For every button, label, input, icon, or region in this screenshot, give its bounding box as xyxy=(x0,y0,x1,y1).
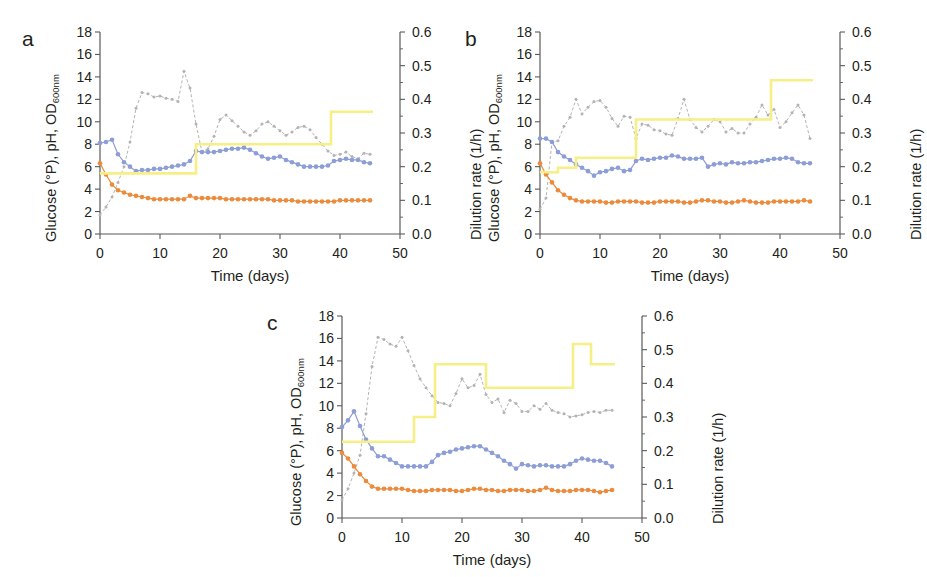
data-point xyxy=(371,365,374,368)
data-point xyxy=(724,200,729,205)
data-point xyxy=(616,165,621,170)
data-point xyxy=(236,146,241,151)
data-point xyxy=(647,124,650,127)
data-point xyxy=(98,141,103,146)
data-point xyxy=(350,158,355,163)
data-point xyxy=(284,158,289,163)
data-point xyxy=(743,132,746,135)
data-point xyxy=(610,200,615,205)
data-point xyxy=(539,208,542,211)
data-point xyxy=(808,161,813,166)
data-point xyxy=(159,94,162,97)
data-point xyxy=(761,103,764,106)
data-point xyxy=(527,410,530,413)
data-point xyxy=(598,490,603,495)
data-point xyxy=(248,148,253,153)
data-point xyxy=(754,200,759,205)
data-point xyxy=(659,129,662,132)
data-point xyxy=(466,445,471,450)
data-point xyxy=(616,199,621,204)
series-dilution-rate xyxy=(100,112,373,174)
data-point xyxy=(146,196,151,201)
data-point xyxy=(551,409,554,412)
data-point xyxy=(610,464,615,469)
data-point xyxy=(237,125,240,128)
data-point xyxy=(362,160,367,165)
data-point xyxy=(773,108,776,111)
data-point xyxy=(273,125,276,128)
data-point xyxy=(340,425,345,430)
data-point xyxy=(694,157,699,162)
data-point xyxy=(442,451,447,456)
data-point xyxy=(508,488,513,493)
data-point xyxy=(580,199,585,204)
data-point xyxy=(760,200,765,205)
data-point xyxy=(236,197,241,202)
data-point xyxy=(664,155,669,160)
data-point xyxy=(377,336,380,339)
data-point xyxy=(641,123,644,126)
data-point xyxy=(526,463,531,468)
data-point xyxy=(407,349,410,352)
data-point xyxy=(314,199,319,204)
data-point xyxy=(442,488,447,493)
data-point xyxy=(135,107,138,110)
data-point xyxy=(767,114,770,117)
data-point xyxy=(562,192,567,197)
data-point xyxy=(544,136,549,141)
data-point xyxy=(346,418,351,423)
data-point xyxy=(376,454,381,459)
data-point xyxy=(706,164,711,169)
data-point xyxy=(171,98,174,101)
data-point xyxy=(712,199,717,204)
data-point xyxy=(376,487,381,492)
data-point xyxy=(586,169,591,174)
data-point xyxy=(538,488,543,493)
data-point xyxy=(538,136,543,141)
data-point xyxy=(290,160,295,165)
plot-area-a xyxy=(4,6,474,290)
data-point xyxy=(152,197,157,202)
data-point xyxy=(272,198,277,203)
data-point xyxy=(533,404,536,407)
data-point xyxy=(496,489,501,494)
data-point xyxy=(754,160,759,165)
data-point xyxy=(586,488,591,493)
data-point xyxy=(796,160,801,165)
data-point xyxy=(369,153,372,156)
data-point xyxy=(309,128,312,131)
data-point xyxy=(413,364,416,367)
data-point xyxy=(320,164,325,169)
data-point xyxy=(592,173,597,178)
data-point xyxy=(779,126,782,129)
data-point xyxy=(230,197,235,202)
data-point xyxy=(164,165,169,170)
data-point xyxy=(188,194,193,199)
data-point xyxy=(340,451,345,456)
data-point xyxy=(592,489,597,494)
data-point xyxy=(345,151,348,154)
data-point xyxy=(290,198,295,203)
series-glucose xyxy=(98,161,373,204)
data-point xyxy=(122,160,127,165)
data-point xyxy=(604,461,609,466)
data-point xyxy=(242,197,247,202)
data-point xyxy=(568,489,573,494)
data-point xyxy=(218,196,223,201)
data-point xyxy=(436,453,441,458)
plot-area-b xyxy=(452,6,922,290)
data-point xyxy=(515,402,518,405)
data-point xyxy=(279,129,282,132)
data-point xyxy=(622,169,627,174)
data-point xyxy=(249,134,252,137)
data-point xyxy=(128,192,133,197)
data-point xyxy=(213,135,216,138)
data-point xyxy=(183,70,186,73)
data-point xyxy=(802,198,807,203)
data-point xyxy=(479,373,482,376)
data-point xyxy=(351,155,354,158)
data-point xyxy=(353,472,356,475)
data-point xyxy=(430,460,435,465)
data-point xyxy=(550,488,555,493)
data-point xyxy=(260,197,265,202)
